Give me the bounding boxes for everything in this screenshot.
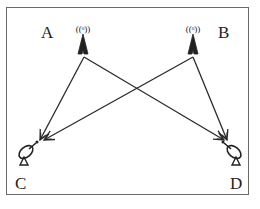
transmitter-tower-icon-b: ((ᵒ)) <box>186 24 201 54</box>
link-b-to-c <box>44 57 193 140</box>
node-label-b: B <box>218 24 229 41</box>
node-label-d: D <box>230 175 242 192</box>
node-label-c: C <box>15 175 26 192</box>
svg-text:((ᵒ)): ((ᵒ)) <box>186 24 201 34</box>
link-a-to-d <box>84 57 224 140</box>
satellite-dish-icon-c <box>17 141 39 166</box>
satellite-dish-icon-d <box>222 141 244 166</box>
diagram-canvas: ((ᵒ)) ((ᵒ)) A B C D <box>0 0 260 209</box>
link-b-to-d <box>193 57 227 140</box>
link-a-to-c <box>40 57 84 140</box>
node-label-a: A <box>41 24 53 41</box>
transmitter-tower-icon-a: ((ᵒ)) <box>76 24 91 54</box>
svg-text:((ᵒ)): ((ᵒ)) <box>76 24 91 34</box>
